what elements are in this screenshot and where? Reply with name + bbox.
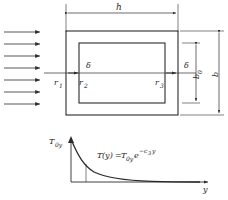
- eq-exp-c-subscript: 3: [148, 150, 151, 156]
- dimension-label-h: h: [116, 2, 122, 12]
- plot-xlabel: y: [202, 185, 208, 194]
- ylabel-subscript: 0y: [55, 141, 63, 149]
- dimension-label-b: b: [211, 72, 220, 77]
- r1-subscript: 1: [59, 82, 63, 89]
- r3-subscript: 3: [160, 82, 164, 89]
- decay-equation: T (y) = T 0y e − c 3 y: [97, 147, 156, 163]
- dimension-width: [66, 4, 178, 32]
- eq-exp-var: y: [151, 147, 156, 155]
- technical-diagram-svg: h δ δ r 1 r 2 r 3: [0, 0, 228, 200]
- dimension-label-b0: b 0: [192, 70, 203, 79]
- resistance-label-r2: r 2: [79, 78, 88, 89]
- curve-peak-marker: [68, 136, 74, 143]
- eq-amplitude-subscript: 0y: [126, 155, 134, 163]
- flow-arrow-group: [4, 32, 40, 104]
- b-base: b: [211, 72, 220, 77]
- decay-curve: [71, 139, 200, 182]
- resistance-label-r1: r 1: [54, 78, 63, 89]
- figure-canvas: h δ δ r 1 r 2 r 3: [0, 0, 228, 200]
- wall-thickness-label-right: δ: [184, 61, 189, 70]
- eq-lhs-arg: (y): [102, 151, 113, 160]
- b0-subscript: 0: [196, 70, 203, 74]
- wall-thickness-label-left: δ: [86, 61, 91, 70]
- r2-subscript: 2: [83, 82, 88, 89]
- plot-ylabel: T 0y: [49, 137, 63, 149]
- resistance-label-r3: r 3: [155, 78, 164, 89]
